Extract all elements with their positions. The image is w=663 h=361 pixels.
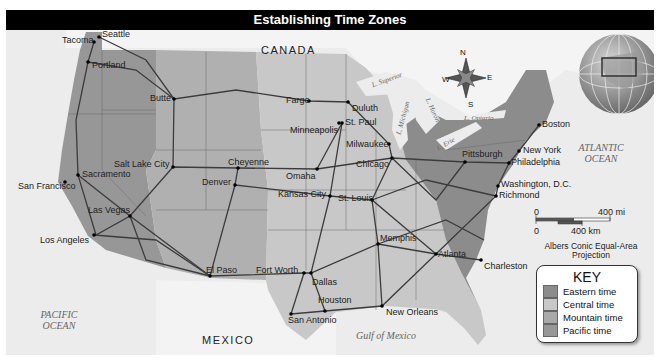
city-fargo: Fargo (286, 96, 310, 105)
city-st-paul: St. Paul (345, 118, 377, 127)
key-item-mountain: Mountain time (543, 311, 637, 324)
city-fort-worth: Fort Worth (256, 266, 298, 275)
city-pittsburgh: Pittsburgh (462, 150, 503, 159)
label-mexico: MEXICO (202, 334, 254, 346)
city-philadelphia: Philadelphia (511, 158, 560, 167)
swatch-mountain (543, 311, 558, 324)
city-cheyenne: Cheyenne (228, 158, 269, 167)
city-washington-dc: Washington, D.C. (501, 180, 571, 189)
key-item-central: Central time (543, 298, 637, 311)
city-sacramento: Sacramento (82, 170, 131, 179)
compass-s: S (468, 100, 473, 109)
city-seattle: Seattle (102, 30, 130, 39)
city-atlanta: Atlanta (438, 250, 466, 259)
scale-mi-label: 400 mi (598, 208, 625, 217)
map-title: Establishing Time Zones (6, 10, 654, 30)
city-dallas: Dallas (312, 278, 337, 287)
city-san-antonio: San Antonio (288, 316, 337, 325)
city-tacoma: Tacoma (62, 36, 94, 45)
city-portland: Portland (92, 61, 126, 70)
scale-km-zero: 0 (534, 227, 539, 236)
key-item-eastern: Eastern time (543, 285, 637, 298)
label-canada: CANADA (261, 44, 316, 56)
city-los-angeles: Los Angeles (40, 236, 89, 245)
city-milwaukee: Milwaukee (346, 140, 389, 149)
scale-km-label: 400 km (571, 227, 601, 236)
city-denver: Denver (202, 178, 231, 187)
city-kansas-city: Kansas City (278, 190, 326, 199)
city-duluth: Duluth (352, 104, 378, 113)
label-pacific-ocean: PACIFIC OCEAN (34, 310, 84, 331)
city-houston: Houston (318, 296, 352, 305)
label-atlantic-ocean: ATLANTIC OCEAN (574, 143, 628, 164)
city-new-orleans: New Orleans (386, 308, 438, 317)
key-item-pacific: Pacific time (543, 324, 637, 337)
swatch-central (543, 298, 558, 311)
city-omaha: Omaha (286, 172, 316, 181)
city-richmond: Richmond (499, 191, 540, 200)
compass-e: E (487, 73, 492, 82)
map-key: KEY Eastern time Central time Mountain t… (536, 265, 638, 343)
city-salt-lake-city: Salt Lake City (114, 160, 170, 169)
city-boston: Boston (542, 120, 570, 129)
city-minneapolis: Minneapolis (290, 126, 338, 135)
swatch-eastern (543, 285, 558, 298)
projection-label: Albers Conic Equal-Area Projection (526, 242, 654, 261)
city-butte: Butte (150, 94, 171, 103)
city-chicago: Chicago (356, 160, 389, 169)
city-el-paso: El Paso (206, 266, 237, 275)
label-lake-ontario: L. Ontario (464, 114, 494, 122)
compass-w: W (442, 75, 450, 84)
city-new-york: New York (523, 146, 561, 155)
key-title: KEY (537, 269, 637, 285)
compass-n: N (460, 48, 466, 57)
city-st-louis: St. Louis (338, 194, 373, 203)
scale-mi-zero: 0 (534, 208, 539, 217)
swatch-pacific (543, 324, 558, 337)
map-frame: Establishing Time Zones (6, 10, 654, 355)
city-las-vegas: Las Vegas (88, 206, 130, 215)
label-gulf-of-mexico: Gulf of Mexico (346, 331, 426, 342)
city-san-francisco: San Francisco (18, 182, 76, 191)
city-charleston: Charleston (484, 262, 528, 271)
city-memphis: Memphis (380, 234, 417, 243)
